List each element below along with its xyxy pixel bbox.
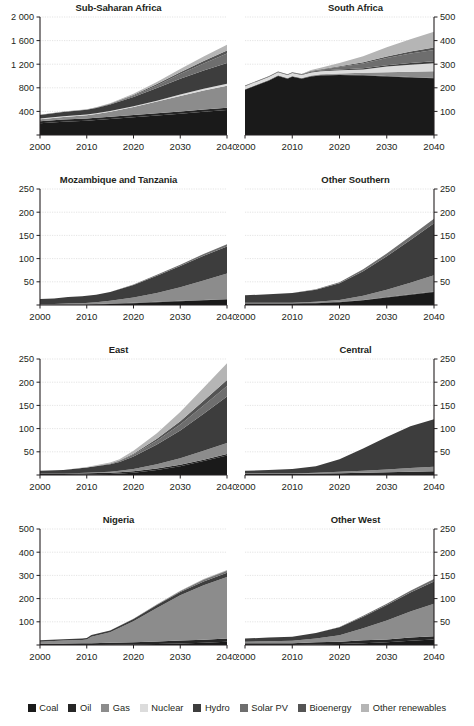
- x-tick-label: 2040: [216, 141, 237, 152]
- x-tick-label: 2030: [170, 311, 191, 322]
- x-tick-label: 2010: [282, 311, 303, 322]
- panel-title: South Africa: [237, 2, 474, 13]
- panel-plot: 5010015020025020002010202020302040: [0, 342, 237, 512]
- y-tick-label: 500: [440, 12, 455, 22]
- x-tick-label: 2000: [237, 651, 256, 662]
- x-tick-label: 2020: [123, 651, 144, 662]
- x-tick-label: 2030: [376, 481, 397, 492]
- y-tick-label: 200: [19, 594, 34, 604]
- chart-panel-sub-saharan-africa: Sub-Saharan Africa4008001 2001 6002 0002…: [0, 0, 237, 172]
- y-tick-label: 100: [440, 594, 455, 604]
- panel-title: Mozambique and Tanzania: [0, 174, 237, 185]
- y-tick-label: 200: [440, 378, 455, 388]
- y-tick-label: 150: [19, 401, 34, 411]
- y-tick-label: 250: [440, 184, 455, 194]
- legend-label: Hydro: [205, 703, 230, 713]
- area-hydro: [245, 419, 434, 473]
- y-tick-label: 200: [19, 208, 34, 218]
- chart-panel-nigeria: Nigeria100200300400500200020102020203020…: [0, 512, 237, 690]
- chart-panel-central: Central501001502002502000201020202030204…: [237, 342, 474, 512]
- x-tick-label: 2010: [76, 141, 97, 152]
- y-tick-label: 1 200: [11, 60, 34, 70]
- legend-item: Solar PV: [240, 703, 288, 713]
- y-tick-label: 150: [19, 231, 34, 241]
- legend-label: Other renewables: [373, 703, 446, 713]
- y-tick-label: 300: [19, 571, 34, 581]
- x-tick-label: 2040: [423, 311, 444, 322]
- legend-item: Coal: [28, 703, 59, 713]
- legend-swatch-icon: [361, 704, 369, 712]
- x-tick-label: 2040: [423, 651, 444, 662]
- x-tick-label: 2040: [423, 481, 444, 492]
- x-tick-label: 2020: [329, 651, 350, 662]
- x-tick-label: 2000: [237, 311, 256, 322]
- panel-plot: 5010015020025020002010202020302040: [237, 512, 474, 690]
- y-tick-label: 300: [440, 60, 455, 70]
- chart-panel-mozambique-and-tanzania: Mozambique and Tanzania50100150200250200…: [0, 172, 237, 342]
- panel-plot: 10020030040050020002010202020302040: [0, 512, 237, 690]
- y-tick-label: 50: [24, 447, 34, 457]
- x-tick-label: 2030: [170, 141, 191, 152]
- x-tick-label: 2020: [123, 311, 144, 322]
- y-tick-label: 200: [19, 378, 34, 388]
- x-tick-label: 2020: [123, 481, 144, 492]
- y-tick-label: 400: [19, 548, 34, 558]
- x-tick-label: 2040: [216, 651, 237, 662]
- y-tick-label: 250: [19, 184, 34, 194]
- y-tick-label: 100: [19, 617, 34, 627]
- panel-plot: 5010015020025020002010202020302040: [237, 172, 474, 342]
- panel-title: Other Southern: [237, 174, 474, 185]
- x-tick-label: 2040: [423, 141, 444, 152]
- x-tick-label: 2010: [76, 311, 97, 322]
- y-tick-label: 400: [440, 36, 455, 46]
- x-tick-label: 2030: [376, 311, 397, 322]
- y-tick-label: 250: [19, 354, 34, 364]
- legend-label: Gas: [113, 703, 130, 713]
- legend-item: Bioenergy: [298, 703, 351, 713]
- y-tick-label: 200: [440, 208, 455, 218]
- x-tick-label: 2020: [329, 481, 350, 492]
- y-tick-label: 100: [19, 254, 34, 264]
- y-tick-label: 200: [440, 548, 455, 558]
- x-tick-label: 2000: [237, 141, 256, 152]
- x-tick-label: 2020: [329, 311, 350, 322]
- x-tick-label: 2030: [170, 481, 191, 492]
- panel-title: Sub-Saharan Africa: [0, 2, 237, 13]
- x-tick-label: 2010: [282, 651, 303, 662]
- x-tick-label: 2010: [76, 481, 97, 492]
- y-tick-label: 50: [440, 617, 450, 627]
- x-tick-label: 2030: [170, 651, 191, 662]
- y-tick-label: 150: [440, 401, 455, 411]
- y-tick-label: 250: [440, 524, 455, 534]
- x-tick-label: 2000: [29, 141, 50, 152]
- panel-title: Other West: [237, 514, 474, 525]
- y-tick-label: 800: [19, 83, 34, 93]
- legend-swatch-icon: [140, 704, 148, 712]
- panel-title: East: [0, 344, 237, 355]
- panel-plot: 5010015020025020002010202020302040: [0, 172, 237, 342]
- chart-grid: Sub-Saharan Africa4008001 2001 6002 0002…: [0, 0, 474, 690]
- panel-plot: 10020030040050020002010202020302040: [237, 0, 474, 172]
- y-tick-label: 500: [19, 524, 34, 534]
- legend-label: Coal: [39, 703, 58, 713]
- y-tick-label: 100: [440, 424, 455, 434]
- legend-item: Gas: [101, 703, 130, 713]
- y-tick-label: 2 000: [11, 12, 34, 22]
- x-tick-label: 2000: [29, 651, 50, 662]
- x-tick-label: 2020: [329, 141, 350, 152]
- chart-legend: CoalOilGasNuclearHydroSolar PVBioenergyO…: [0, 690, 474, 726]
- y-tick-label: 150: [440, 231, 455, 241]
- chart-panel-east: East5010015020025020002010202020302040: [0, 342, 237, 512]
- chart-panel-other-west: Other West501001502002502000201020202030…: [237, 512, 474, 690]
- x-tick-label: 2030: [376, 651, 397, 662]
- y-tick-label: 50: [24, 277, 34, 287]
- y-tick-label: 100: [440, 254, 455, 264]
- x-tick-label: 2040: [216, 481, 237, 492]
- panel-plot: 4008001 2001 6002 0002000201020202030204…: [0, 0, 237, 172]
- legend-label: Solar PV: [251, 703, 288, 713]
- legend-label: Nuclear: [151, 703, 183, 713]
- legend-item: Oil: [68, 703, 91, 713]
- x-tick-label: 2010: [282, 481, 303, 492]
- x-tick-label: 2040: [216, 311, 237, 322]
- x-tick-label: 2010: [76, 651, 97, 662]
